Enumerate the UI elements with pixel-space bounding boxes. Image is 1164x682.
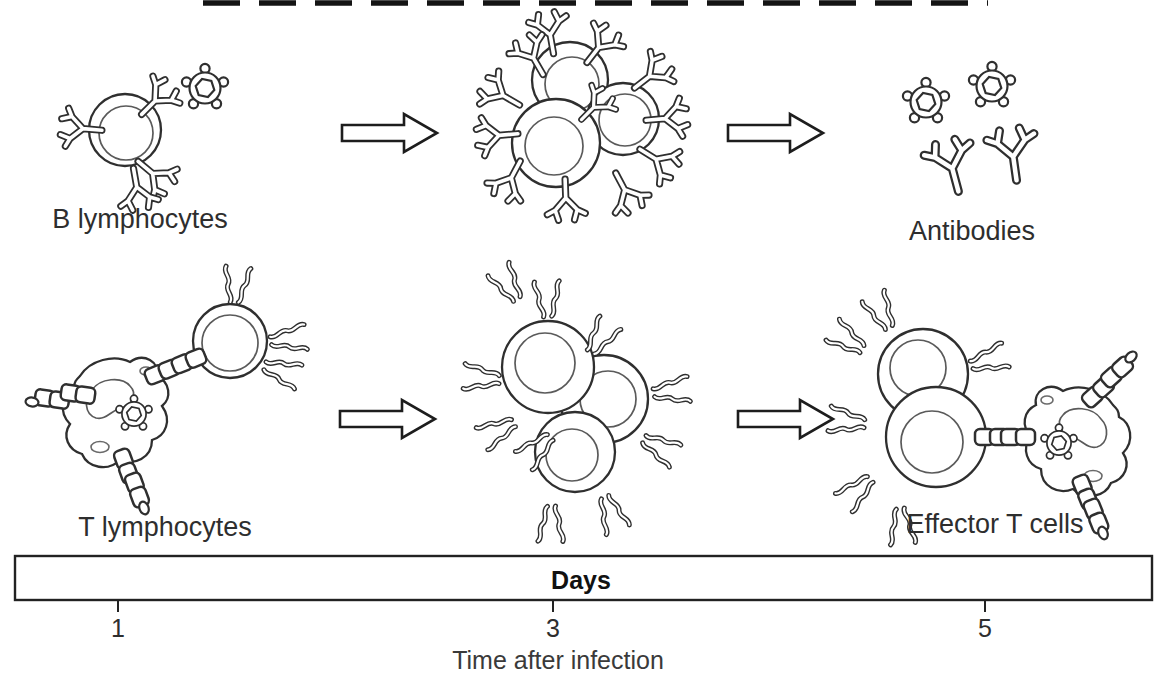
b-lymphocyte-single <box>59 64 228 212</box>
mhc-chain-link-icon <box>1001 429 1035 445</box>
right-arrow-icon <box>340 400 435 438</box>
mhc-chain-link-icon <box>60 384 96 405</box>
antigen-virus-icon <box>182 64 228 109</box>
timeline: Days 1 3 5 Time after infection <box>15 556 1152 674</box>
free-antibodies <box>903 62 1040 198</box>
t-lymphocytes-label: T lymphocytes <box>78 512 252 542</box>
right-arrow-icon <box>342 114 437 152</box>
timeline-tick-label: 5 <box>978 614 992 642</box>
antigen-virus-icon <box>903 78 949 123</box>
figure-canvas: B lymphocytes Antibodies <box>0 0 1164 682</box>
t-cell-receptor-icon <box>268 322 309 356</box>
timeline-title: Days <box>551 566 611 594</box>
effector-t-cells-group <box>825 289 1139 546</box>
mhc-chain-link-icon <box>170 347 208 375</box>
immune-response-diagram: B lymphocytes Antibodies <box>0 0 1164 682</box>
antigen-virus-icon <box>969 62 1015 107</box>
timeline-tick-label: 1 <box>111 614 125 642</box>
t-cell-receptor-icon <box>222 266 252 304</box>
t-cell-receptor-icon <box>260 353 302 389</box>
t-cell-cluster <box>463 261 692 542</box>
b-cell-cluster <box>475 10 689 221</box>
t-lymphocyte-group <box>25 266 309 516</box>
antibody-icon <box>922 136 981 198</box>
antibody-icon <box>986 126 1040 183</box>
b-lymphocytes-label: B lymphocytes <box>52 204 228 234</box>
right-arrow-icon <box>728 114 823 152</box>
time-axis-label: Time after infection <box>452 646 664 674</box>
effector-t-cells-label: Effector T cells <box>906 509 1083 539</box>
timeline-tick-label: 3 <box>546 614 560 642</box>
right-arrow-icon <box>738 400 833 438</box>
antibodies-label: Antibodies <box>909 216 1035 246</box>
